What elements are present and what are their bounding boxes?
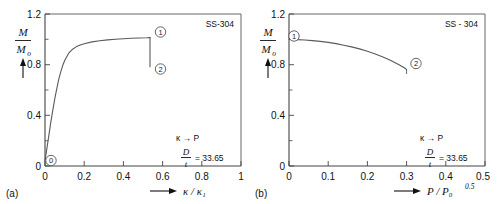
- x-axis-title-exponent-b: 0.5: [465, 182, 475, 191]
- loading-path-annotation-b: κ → P: [420, 133, 443, 143]
- dt-ratio-denominator-a: t: [185, 159, 188, 169]
- marker-2-label-a: 2: [158, 65, 162, 74]
- dt-ratio-denominator-b: t: [429, 159, 432, 169]
- y-axis-title-numerator-a: M: [17, 26, 28, 38]
- y-axis-title-subscript-a: o: [27, 49, 31, 58]
- x-ticklabel-b-01: 0.1: [321, 171, 335, 182]
- x-ticklabel-a-0: 0: [42, 171, 48, 182]
- curve-moment-curvature-a: [45, 38, 150, 161]
- marker-1-label-a: 1: [158, 28, 162, 37]
- y-ticklabel-b-08: 0.8: [271, 59, 285, 70]
- loading-path-annotation-a: κ → P: [176, 133, 199, 143]
- x-ticklabel-b-0: 0: [286, 171, 292, 182]
- y-ticklabel-a-04: 0.4: [27, 110, 41, 121]
- y-ticklabel-a-08: 0.8: [27, 59, 41, 70]
- x-axis-title-a: κ / κ₁: [183, 185, 206, 197]
- x-axis-title-b: P / P₀: [426, 185, 453, 197]
- panel-b: 0 0.4 0.8 1.2 0 0.1 0.2 0.3 0.4 0.5 M M …: [249, 0, 498, 204]
- x-ticklabel-a-08: 0.8: [195, 171, 209, 182]
- y-ticklabel-b-12: 1.2: [271, 9, 285, 20]
- marker-1-b: 1: [289, 31, 299, 41]
- dt-ratio-numerator-a: D: [182, 147, 190, 157]
- dt-ratio-numerator-b: D: [426, 147, 434, 157]
- figure-container: 0 0.4 0.8 1.2 0 0.2 0.4 0.6 0.8 1 M M o: [0, 0, 498, 204]
- panel-a-plot: 0 0.4 0.8 1.2 0 0.2 0.4 0.6 0.8 1 M M o: [0, 0, 249, 204]
- y-ticklabel-a-0: 0: [35, 161, 41, 172]
- x-axis-arrow-head-b: [413, 188, 421, 194]
- panel-b-plot: 0 0.4 0.8 1.2 0 0.1 0.2 0.3 0.4 0.5 M M …: [249, 0, 498, 204]
- x-ticklabel-a-04: 0.4: [116, 171, 130, 182]
- panel-a: 0 0.4 0.8 1.2 0 0.2 0.4 0.6 0.8 1 M M o: [0, 0, 249, 204]
- x-ticklabel-b-04: 0.4: [439, 171, 453, 182]
- x-ticklabel-a-06: 0.6: [156, 171, 170, 182]
- y-axis-title-numerator-b: M: [262, 26, 273, 38]
- dt-ratio-value-b: = 33.65: [439, 153, 468, 163]
- marker-2-a: 2: [155, 64, 165, 74]
- marker-1-label-b: 1: [292, 32, 296, 41]
- curve-moment-pressure-b: [289, 39, 407, 69]
- material-label-a: SS-304: [206, 19, 235, 29]
- x-axis-arrow-head-a: [169, 188, 177, 194]
- subfigure-label-b: (b): [255, 188, 267, 199]
- subfigure-label-a: (a): [6, 188, 18, 199]
- material-label-b: SS - 304: [445, 19, 478, 29]
- x-ticklabel-b-02: 0.2: [360, 171, 374, 182]
- x-ticklabel-a-02: 0.2: [77, 171, 91, 182]
- marker-2-label-b: 2: [414, 59, 418, 68]
- marker-1-a: 1: [155, 27, 165, 37]
- y-axis-arrow-head-a: [20, 58, 26, 66]
- x-ticklabel-a-1: 1: [238, 171, 244, 182]
- x-ticklabel-b-05: 0.5: [476, 171, 490, 182]
- y-ticklabel-a-12: 1.2: [27, 9, 41, 20]
- marker-2-b: 2: [411, 58, 421, 68]
- y-axis-title-subscript-b: o: [272, 49, 276, 58]
- y-ticklabel-b-0: 0: [279, 161, 285, 172]
- y-axis-title-denominator-a: M: [15, 43, 26, 55]
- y-axis-title-denominator-b: M: [260, 43, 271, 55]
- marker-0-label-a: 0: [49, 156, 53, 165]
- marker-0-a: 0: [46, 155, 56, 165]
- x-ticklabel-b-03: 0.3: [400, 171, 414, 182]
- y-ticklabel-b-04: 0.4: [271, 110, 285, 121]
- y-axis-arrow-head-b: [265, 58, 271, 66]
- dt-ratio-value-a: = 33.65: [195, 153, 224, 163]
